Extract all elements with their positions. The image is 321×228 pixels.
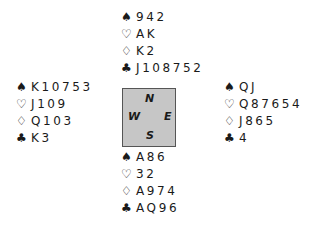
south-diamonds: ♢A974 [121, 183, 179, 200]
club-icon: ♣ [224, 130, 239, 147]
north-hearts: ♡AK [121, 26, 204, 43]
south-spades: ♠A86 [121, 149, 179, 166]
east-diamonds: ♢J865 [224, 113, 302, 130]
club-icon: ♣ [121, 60, 136, 77]
compass-north: N [145, 92, 154, 105]
north-spades: ♠942 [121, 9, 204, 26]
south-hand: ♠A86 ♡32 ♢A974 ♣AQ96 [121, 149, 179, 217]
east-spades: ♠QJ [224, 79, 302, 96]
spade-icon: ♠ [121, 149, 136, 166]
east-hand: ♠QJ ♡Q87654 ♢J865 ♣4 [224, 79, 302, 147]
north-hand: ♠942 ♡AK ♢K2 ♣J108752 [121, 9, 204, 77]
west-clubs: ♣K3 [16, 130, 93, 147]
heart-icon: ♡ [224, 96, 239, 113]
north-diamonds: ♢K2 [121, 43, 204, 60]
compass-east: E [164, 110, 172, 123]
diamond-icon: ♢ [121, 183, 136, 200]
east-hearts: ♡Q87654 [224, 96, 302, 113]
heart-icon: ♡ [121, 26, 136, 43]
club-icon: ♣ [121, 200, 136, 217]
spade-icon: ♠ [16, 79, 31, 96]
diamond-icon: ♢ [16, 113, 31, 130]
heart-icon: ♡ [16, 96, 31, 113]
east-clubs: ♣4 [224, 130, 302, 147]
south-hearts: ♡32 [121, 166, 179, 183]
west-spades: ♠K10753 [16, 79, 93, 96]
spade-icon: ♠ [121, 9, 136, 26]
west-hearts: ♡J109 [16, 96, 93, 113]
compass-south: S [146, 129, 154, 142]
club-icon: ♣ [16, 130, 31, 147]
heart-icon: ♡ [121, 166, 136, 183]
west-hand: ♠K10753 ♡J109 ♢Q103 ♣K3 [16, 79, 93, 147]
diamond-icon: ♢ [224, 113, 239, 130]
spade-icon: ♠ [224, 79, 239, 96]
south-clubs: ♣AQ96 [121, 200, 179, 217]
compass-west: W [128, 110, 140, 123]
west-diamonds: ♢Q103 [16, 113, 93, 130]
compass-box: N W E S [122, 88, 176, 147]
diamond-icon: ♢ [121, 43, 136, 60]
north-clubs: ♣J108752 [121, 60, 204, 77]
